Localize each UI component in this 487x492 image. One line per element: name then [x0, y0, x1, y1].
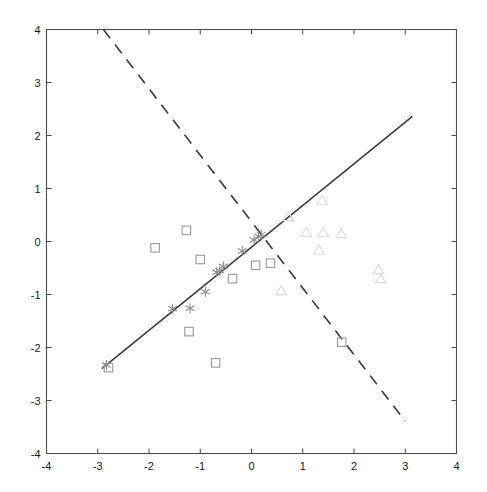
scatter-plot-figure: -4-3-2-101234-4-3-2-101234	[0, 0, 487, 492]
x-tick-label-4: 4	[453, 461, 459, 472]
y-tick-label--3: -3	[31, 395, 41, 406]
y-tick-label--4: -4	[31, 448, 41, 459]
x-tick-label-1: 1	[300, 461, 306, 472]
x-tick-label--3: -3	[93, 461, 103, 472]
x-tick-label--2: -2	[144, 461, 154, 472]
x-tick-label-3: 3	[402, 461, 408, 472]
x-tick-label-2: 2	[351, 461, 357, 472]
y-tick-label-0: 0	[34, 236, 40, 247]
y-tick-label-4: 4	[34, 24, 40, 35]
y-tick-label--1: -1	[31, 289, 41, 300]
x-tick-label--1: -1	[195, 461, 205, 472]
y-tick-label--2: -2	[31, 342, 41, 353]
plot-canvas	[0, 0, 487, 492]
y-tick-label-2: 2	[34, 130, 40, 141]
y-tick-label-1: 1	[34, 183, 40, 194]
x-tick-label-0: 0	[248, 461, 254, 472]
y-tick-label-3: 3	[34, 77, 40, 88]
x-tick-label--4: -4	[42, 461, 52, 472]
